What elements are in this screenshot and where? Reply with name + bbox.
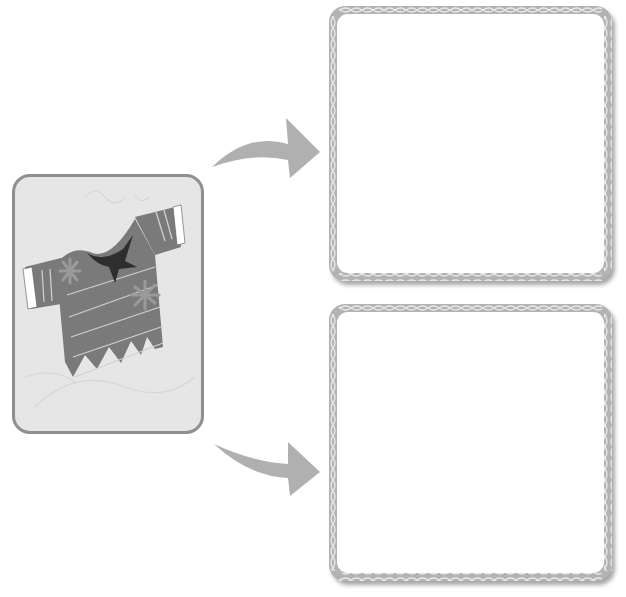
answer-area-bottom[interactable] bbox=[337, 312, 604, 573]
torn-shirt-illustration bbox=[15, 177, 201, 431]
picture-card: Torn striped short-sleeve shirt with flo… bbox=[12, 174, 204, 434]
answer-box-top bbox=[329, 6, 612, 281]
answer-box-bottom bbox=[329, 304, 612, 581]
curved-arrow-right-up-icon bbox=[208, 112, 323, 182]
shirt-icon bbox=[23, 205, 185, 377]
curved-arrow-right-down-icon bbox=[208, 430, 323, 500]
answer-area-top[interactable] bbox=[337, 14, 604, 273]
